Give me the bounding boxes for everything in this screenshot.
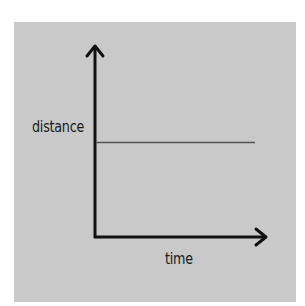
x-axis-label: time	[165, 250, 193, 268]
x-axis	[94, 229, 266, 245]
distance-time-graph	[0, 0, 305, 306]
y-axis-label: distance	[32, 118, 84, 136]
